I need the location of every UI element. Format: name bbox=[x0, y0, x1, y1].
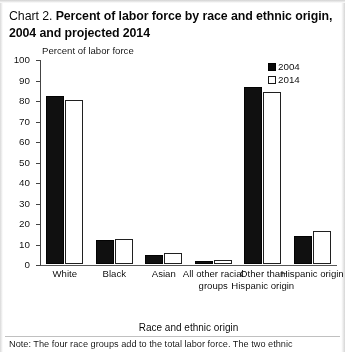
legend-item-2014: 2014 bbox=[268, 73, 300, 86]
x-axis-title: Race and ethnic origin bbox=[40, 322, 337, 333]
bar-2014 bbox=[65, 100, 83, 264]
legend-label: 2014 bbox=[278, 74, 300, 85]
bar-group: Black bbox=[90, 59, 140, 264]
y-tick-label-20: 20 bbox=[4, 218, 30, 229]
y-tick-label-90: 90 bbox=[4, 75, 30, 86]
bar-2014 bbox=[263, 92, 281, 264]
bar-2004 bbox=[145, 255, 163, 264]
y-tick-label-10: 10 bbox=[4, 239, 30, 250]
bar-2014 bbox=[313, 231, 331, 264]
chart-title-text: Percent of labor force by race and ethni… bbox=[9, 9, 332, 40]
bar-2014 bbox=[214, 260, 232, 264]
bar-2004 bbox=[96, 240, 114, 264]
bar-2004 bbox=[46, 96, 64, 264]
bar-group: Other than Hispanic origin bbox=[238, 59, 288, 264]
y-tick-label-60: 60 bbox=[4, 136, 30, 147]
bar-group: All other racial groups bbox=[189, 59, 239, 264]
y-tick-label-100: 100 bbox=[4, 54, 30, 65]
y-tick-label-30: 30 bbox=[4, 198, 30, 209]
page-edge-top bbox=[0, 0, 345, 3]
x-category-label: Hispanic origin bbox=[280, 268, 344, 280]
y-tick-label-0: 0 bbox=[4, 259, 30, 270]
y-tick-label-40: 40 bbox=[4, 177, 30, 188]
chart-number-label: Chart 2. bbox=[9, 9, 52, 23]
bar-group: White bbox=[40, 59, 90, 264]
legend-swatch-icon bbox=[268, 76, 276, 84]
bar-2004 bbox=[294, 236, 312, 264]
chart-page: Chart 2. Percent of labor force by race … bbox=[0, 0, 345, 352]
plot-area: 0102030405060708090100 WhiteBlackAsianAl… bbox=[40, 60, 337, 265]
chart-legend: 20042014 bbox=[268, 60, 300, 86]
legend-item-2004: 2004 bbox=[268, 60, 300, 73]
legend-label: 2004 bbox=[278, 61, 300, 72]
y-tick-label-70: 70 bbox=[4, 116, 30, 127]
bar-2004 bbox=[195, 261, 213, 264]
plot-area-wrapper: Percent of labor force 01020304050607080… bbox=[0, 44, 345, 284]
y-tick-label-50: 50 bbox=[4, 157, 30, 168]
x-axis-line bbox=[40, 265, 337, 266]
chart-title: Chart 2. Percent of labor force by race … bbox=[9, 8, 339, 41]
bar-group: Asian bbox=[139, 59, 189, 264]
bar-2014 bbox=[164, 253, 182, 264]
y-axis-title: Percent of labor force bbox=[42, 45, 134, 56]
chart-footnote: Note: The four race groups add to the to… bbox=[9, 339, 339, 350]
bar-group: Hispanic origin bbox=[288, 59, 338, 264]
y-tick-label-80: 80 bbox=[4, 95, 30, 106]
footnote-divider bbox=[5, 336, 340, 337]
bar-2014 bbox=[115, 239, 133, 264]
y-tick-0 bbox=[36, 265, 41, 266]
bar-2004 bbox=[244, 87, 262, 264]
legend-swatch-icon bbox=[268, 63, 276, 71]
